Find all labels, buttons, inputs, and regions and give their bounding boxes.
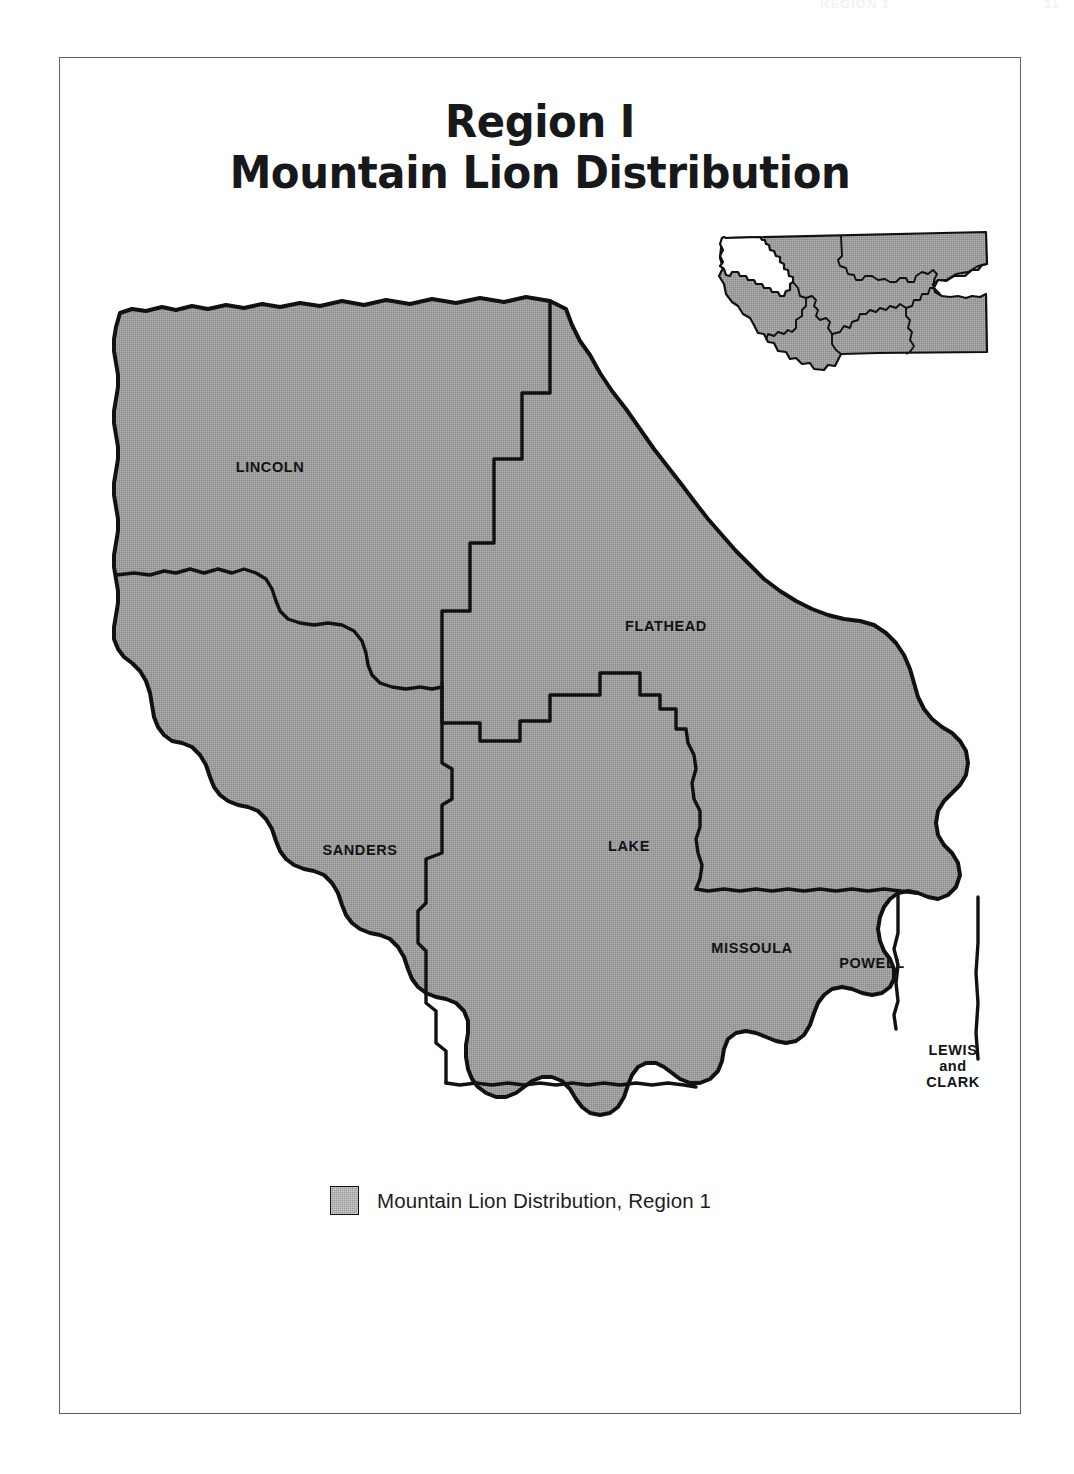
lewis-and-clark-line-2: and [926, 1058, 980, 1074]
running-head-right: 11 [1044, 0, 1060, 12]
region-1-map-svg [80, 243, 1000, 1143]
legend-swatch-distribution [330, 1186, 359, 1215]
title-line-2: Mountain Lion Distribution [94, 147, 987, 198]
county-label-lake: LAKE [608, 839, 650, 854]
lewis-and-clark-line-3: CLARK [926, 1074, 980, 1090]
county-label-lincoln: LINCOLN [236, 460, 305, 475]
page-title: Region I Mountain Lion Distribution [60, 96, 1020, 198]
boundary-powell-lewisclark [976, 897, 978, 1059]
title-line-1: Region I [94, 96, 987, 147]
region-map-container [80, 243, 1000, 1143]
distribution-area-fill [114, 297, 968, 1115]
running-head: REGION 1 11 [820, 0, 1060, 12]
running-head-left: REGION 1 [820, 0, 890, 12]
county-label-sanders: SANDERS [322, 843, 397, 858]
lewis-and-clark-line-1: LEWIS [926, 1042, 980, 1058]
legend-label-distribution: Mountain Lion Distribution, Region 1 [377, 1189, 711, 1213]
county-label-flathead: FLATHEAD [625, 619, 707, 634]
county-label-missoula: MISSOULA [711, 941, 792, 956]
county-label-lewis-and-clark: LEWIS and CLARK [926, 1042, 980, 1090]
county-label-powell: POWELL [839, 956, 905, 971]
page-frame: Region I Mountain Lion Distribution [59, 57, 1021, 1414]
map-legend: Mountain Lion Distribution, Region 1 [330, 1186, 711, 1215]
